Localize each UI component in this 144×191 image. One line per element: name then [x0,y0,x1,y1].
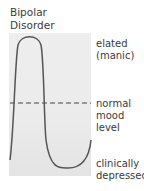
label-elated-line-2: (manic) [96,50,134,62]
label-normal-line-1: normal [96,98,131,110]
label-elated: elated (manic) [96,38,134,62]
label-depressed-line-1: clinically [96,158,144,170]
label-depressed-line-2: depressed [96,170,144,182]
mood-curve [10,37,91,168]
label-normal-mood: normal mood level [96,98,131,134]
label-elated-line-1: elated [96,38,134,50]
label-normal-line-3: level [96,122,131,134]
label-normal-line-2: mood [96,110,131,122]
label-depressed: clinically depressed [96,158,144,182]
